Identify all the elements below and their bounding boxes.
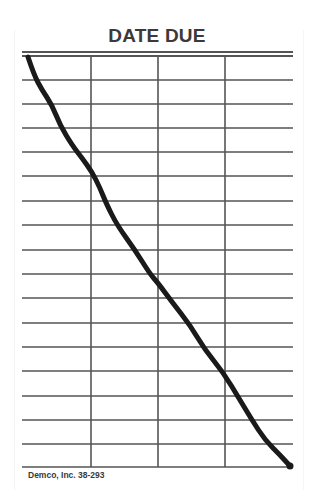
- date-due-grid: [0, 0, 314, 500]
- grid-lines: [22, 52, 293, 467]
- strike-line-end-dot: [287, 463, 294, 470]
- publisher-footer: Demco, Inc. 38-293: [28, 470, 105, 480]
- strike-through-line: [28, 57, 290, 466]
